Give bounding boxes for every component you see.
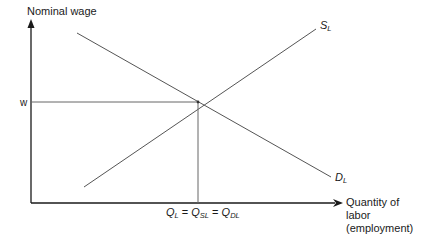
- demand-label-subscript: L: [343, 176, 347, 185]
- qsl-sub: SL: [200, 211, 209, 220]
- qsl-text: Q: [191, 206, 200, 218]
- qdl-text: Q: [222, 206, 231, 218]
- x-axis-label-line-1: Quantity of: [346, 196, 413, 209]
- x-axis-label-line-3: (employment): [346, 222, 413, 235]
- equilibrium-quantity-label: QL = QSL = QDL: [166, 206, 240, 222]
- supply-curve-label: SL: [320, 19, 332, 35]
- supply-label-subscript: L: [327, 24, 331, 33]
- ql-text: Q: [166, 206, 175, 218]
- demand-label-text: D: [335, 171, 343, 183]
- supply-curve: [84, 29, 316, 187]
- qdl-sub: DL: [230, 211, 240, 220]
- wage-label: w: [20, 96, 27, 109]
- x-axis-label-line-2: labor: [346, 209, 413, 222]
- demand-curve-label: DL: [335, 171, 347, 187]
- equilibrium-point: [197, 101, 200, 104]
- y-axis-label: Nominal wage: [27, 5, 97, 18]
- equals-2: =: [209, 206, 222, 218]
- y-axis-arrow-icon: [28, 19, 35, 28]
- equals-1: =: [179, 206, 192, 218]
- x-axis-label: Quantity of labor (employment): [346, 196, 413, 235]
